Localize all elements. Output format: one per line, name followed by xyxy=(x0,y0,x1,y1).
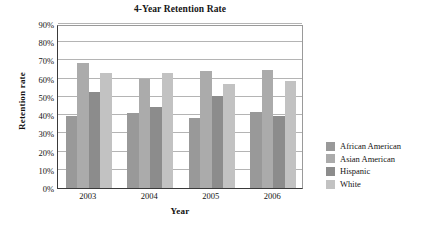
y-tick-label: 30% xyxy=(4,129,54,139)
x-tick-label: 2004 xyxy=(141,191,158,201)
bar xyxy=(66,116,78,188)
gridline xyxy=(58,41,302,42)
bar xyxy=(212,96,224,188)
chart-title: 4-Year Retention Rate xyxy=(57,4,303,14)
legend-label: Hispanic xyxy=(340,167,370,176)
bar xyxy=(200,71,212,188)
chart-legend: African AmericanAsian AmericanHispanicWh… xyxy=(326,140,434,190)
legend-swatch xyxy=(326,142,335,151)
bar xyxy=(250,112,262,188)
chart-screenshot: 4-Year Retention Rate Retention rate 0%1… xyxy=(0,0,437,232)
bar xyxy=(127,113,139,188)
plot-area xyxy=(57,25,303,189)
y-tick-label: 90% xyxy=(4,20,54,30)
bar xyxy=(273,116,285,188)
bar xyxy=(223,84,235,188)
legend-item[interactable]: Asian American xyxy=(326,153,434,166)
gridline xyxy=(58,23,302,24)
y-tick-label: 10% xyxy=(4,166,54,176)
legend-label: African American xyxy=(340,142,401,151)
y-tick-label: 80% xyxy=(4,38,54,48)
bar xyxy=(189,118,201,188)
y-tick-label: 40% xyxy=(4,111,54,121)
bar xyxy=(89,92,101,188)
x-tick-label: 2006 xyxy=(264,191,281,201)
bar xyxy=(100,73,112,188)
legend-label: Asian American xyxy=(340,155,395,164)
bar xyxy=(262,70,274,188)
bar xyxy=(285,81,297,188)
x-tick-label: 2005 xyxy=(202,191,219,201)
gridline xyxy=(58,59,302,60)
bar xyxy=(139,79,151,188)
y-tick-label: 20% xyxy=(4,148,54,158)
y-axis-tick-labels: 0%10%20%30%40%50%60%70%80%90% xyxy=(0,25,54,189)
x-tick-label: 2003 xyxy=(79,191,96,201)
bar xyxy=(150,107,162,188)
x-axis-tick-labels: 2003200420052006 xyxy=(57,191,303,205)
x-axis-title: Year xyxy=(57,206,303,216)
legend-swatch xyxy=(326,154,335,163)
y-tick-label: 70% xyxy=(4,56,54,66)
legend-label: White xyxy=(340,180,361,189)
legend-item[interactable]: African American xyxy=(326,140,434,153)
bar xyxy=(77,63,89,188)
y-tick-label: 60% xyxy=(4,75,54,85)
legend-swatch xyxy=(326,167,335,176)
y-tick-label: 50% xyxy=(4,93,54,103)
legend-swatch xyxy=(326,180,335,189)
y-tick-label: 0% xyxy=(4,184,54,194)
bar xyxy=(162,73,174,188)
legend-item[interactable]: Hispanic xyxy=(326,165,434,178)
legend-item[interactable]: White xyxy=(326,178,434,191)
